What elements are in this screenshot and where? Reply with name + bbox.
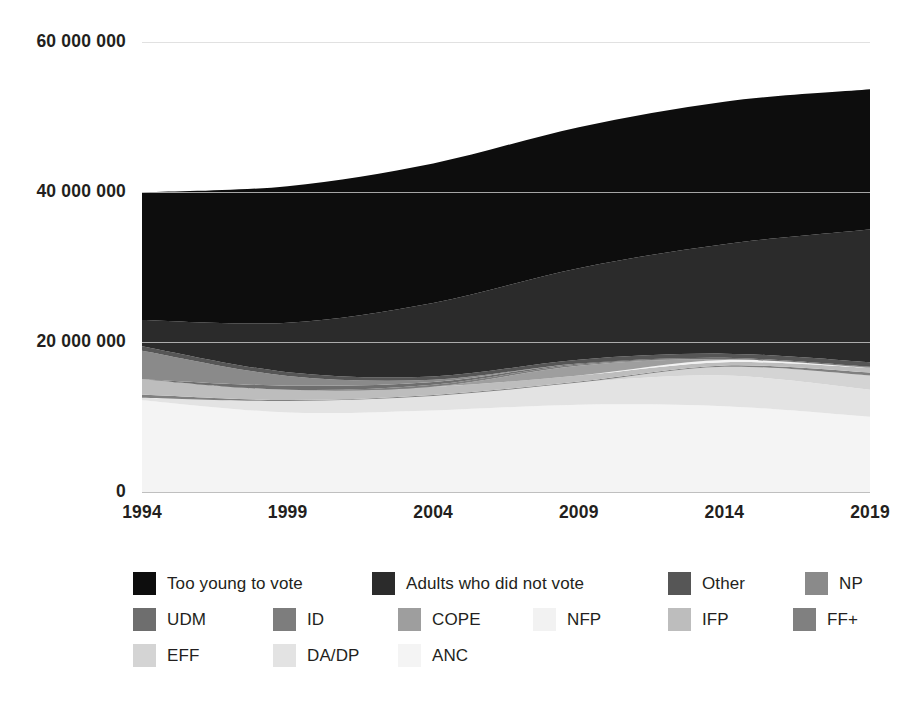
legend-item-id[interactable]: ID bbox=[273, 608, 324, 631]
legend-swatch-icon bbox=[398, 644, 421, 667]
y-axis-tick-label: 40 000 000 bbox=[0, 181, 126, 202]
legend-item-anc[interactable]: ANC bbox=[398, 644, 468, 667]
legend-swatch-icon bbox=[668, 608, 691, 631]
legend-item-label: Too young to vote bbox=[167, 574, 303, 594]
legend-item-label: COPE bbox=[432, 610, 481, 630]
legend-item-da-dp[interactable]: DA/DP bbox=[273, 644, 359, 667]
legend-swatch-icon bbox=[533, 608, 556, 631]
legend-item-too-young-to-vote[interactable]: Too young to vote bbox=[133, 572, 303, 595]
chart-page: 020 000 00040 000 00060 000 000 19941999… bbox=[0, 0, 902, 718]
legend-swatch-icon bbox=[372, 572, 395, 595]
legend-item-label: Adults who did not vote bbox=[406, 574, 584, 594]
legend-swatch-icon bbox=[805, 572, 828, 595]
legend-item-label: DA/DP bbox=[307, 646, 359, 666]
y-axis-tick-label: 60 000 000 bbox=[0, 31, 126, 52]
legend-item-label: EFF bbox=[167, 646, 199, 666]
legend-item-label: NFP bbox=[567, 610, 601, 630]
y-axis-tick-label: 0 bbox=[0, 481, 126, 502]
legend-swatch-icon bbox=[133, 608, 156, 631]
x-axis-tick-label: 1994 bbox=[97, 502, 187, 523]
chart-plot-svg bbox=[0, 0, 902, 540]
legend-item-label: ID bbox=[307, 610, 324, 630]
legend-swatch-icon bbox=[133, 644, 156, 667]
legend-item-other[interactable]: Other bbox=[668, 572, 745, 595]
legend-swatch-icon bbox=[273, 608, 296, 631]
legend-item-nfp[interactable]: NFP bbox=[533, 608, 601, 631]
legend-swatch-icon bbox=[133, 572, 156, 595]
legend-item-label: NP bbox=[839, 574, 863, 594]
y-axis-tick-label: 20 000 000 bbox=[0, 331, 126, 352]
legend-item-adults-who-did-not-vote[interactable]: Adults who did not vote bbox=[372, 572, 584, 595]
legend-row: UDMIDCOPENFPIFPFF+ bbox=[133, 602, 893, 638]
legend-row: EFFDA/DPANC bbox=[133, 638, 893, 674]
legend-item-udm[interactable]: UDM bbox=[133, 608, 206, 631]
legend-item-label: UDM bbox=[167, 610, 206, 630]
legend-item-np[interactable]: NP bbox=[805, 572, 863, 595]
legend-swatch-icon bbox=[668, 572, 691, 595]
legend-item-cope[interactable]: COPE bbox=[398, 608, 481, 631]
legend-swatch-icon bbox=[793, 608, 816, 631]
legend-item-ff+[interactable]: FF+ bbox=[793, 608, 858, 631]
stacked-area-chart: 020 000 00040 000 00060 000 000 19941999… bbox=[0, 0, 902, 540]
area-band-anc bbox=[142, 400, 870, 492]
legend-item-eff[interactable]: EFF bbox=[133, 644, 199, 667]
chart-bands-group bbox=[142, 89, 870, 492]
chart-legend: Too young to voteAdults who did not vote… bbox=[133, 566, 893, 674]
legend-row: Too young to voteAdults who did not vote… bbox=[133, 566, 893, 602]
x-axis-tick-label: 2004 bbox=[388, 502, 478, 523]
legend-item-ifp[interactable]: IFP bbox=[668, 608, 729, 631]
x-axis-tick-label: 2019 bbox=[825, 502, 902, 523]
x-axis-tick-label: 2009 bbox=[534, 502, 624, 523]
x-axis-tick-label: 2014 bbox=[679, 502, 769, 523]
legend-item-label: IFP bbox=[702, 610, 729, 630]
legend-swatch-icon bbox=[398, 608, 421, 631]
legend-item-label: Other bbox=[702, 574, 745, 594]
x-axis-tick-label: 1999 bbox=[243, 502, 333, 523]
legend-swatch-icon bbox=[273, 644, 296, 667]
legend-item-label: FF+ bbox=[827, 610, 858, 630]
legend-item-label: ANC bbox=[432, 646, 468, 666]
